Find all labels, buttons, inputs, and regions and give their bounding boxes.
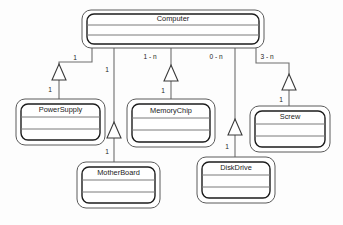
screw-class-name: Screw bbox=[280, 112, 301, 121]
multiplicity-powersupply-source: 1 bbox=[73, 54, 77, 61]
powersupply-class-name: PowerSupply bbox=[39, 105, 83, 114]
multiplicity-memorychip-source: 1 - n bbox=[143, 53, 157, 60]
class-box-diskdrive[interactable]: DiskDrive bbox=[197, 157, 275, 203]
motherboard-class-name: MotherBoard bbox=[97, 168, 140, 177]
multiplicity-motherboard-target: 1 bbox=[105, 148, 109, 155]
multiplicity-screw-target: 1 bbox=[279, 96, 283, 103]
uml-class-diagram: Computer PowerSupply MemoryChip Screw bbox=[0, 0, 343, 225]
class-box-powersupply[interactable]: PowerSupply bbox=[16, 99, 105, 145]
class-box-memorychip[interactable]: MemoryChip bbox=[127, 99, 215, 147]
multiplicity-powersupply-target: 1 bbox=[48, 86, 52, 93]
multiplicity-diskdrive-source: 0 - n bbox=[209, 53, 223, 60]
diskdrive-class-name: DiskDrive bbox=[220, 163, 252, 172]
arrowhead-triangle-powersupply bbox=[52, 64, 66, 80]
diagram-canvas: Computer PowerSupply MemoryChip Screw bbox=[0, 0, 343, 225]
class-box-screw[interactable]: Screw bbox=[250, 106, 330, 152]
arrowhead-triangle-screw bbox=[282, 74, 296, 90]
arrowhead-triangle-diskdrive bbox=[228, 119, 242, 135]
computer-class-name: Computer bbox=[157, 14, 190, 23]
memorychip-class-name: MemoryChip bbox=[150, 106, 192, 115]
multiplicity-memorychip-target: 1 bbox=[161, 87, 165, 94]
multiplicity-screw-source: 3 - n bbox=[260, 53, 274, 60]
arrowhead-triangle-memorychip bbox=[164, 65, 178, 81]
multiplicity-diskdrive-target: 1 bbox=[225, 143, 229, 150]
class-box-motherboard[interactable]: MotherBoard bbox=[77, 162, 160, 208]
arrowhead-triangle-motherboard bbox=[107, 122, 121, 138]
class-box-computer[interactable]: Computer bbox=[82, 10, 264, 48]
multiplicity-motherboard-source: 1 bbox=[105, 66, 109, 73]
